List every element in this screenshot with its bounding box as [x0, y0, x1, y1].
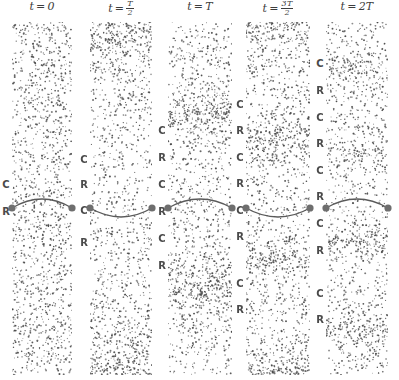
band-label-compression: C	[156, 180, 168, 190]
particle-field-2	[168, 22, 232, 375]
band-label-compression: C	[234, 100, 246, 110]
band-label-rarefaction: R	[314, 315, 326, 325]
band-label-compression: C	[156, 234, 168, 244]
band-label-rarefaction: R	[156, 153, 168, 163]
band-label-compression: C	[234, 279, 246, 289]
band-label-rarefaction: R	[156, 261, 168, 271]
band-label-compression: C	[156, 126, 168, 136]
column-title-3: t=3T2	[246, 0, 310, 18]
title-operator: =	[345, 0, 358, 13]
band-label-compression: C	[314, 289, 326, 299]
band-label-compression: C	[0, 180, 12, 190]
title-value: 2T	[359, 0, 374, 13]
column-title-2: t=T	[168, 0, 232, 13]
title-operator: =	[113, 2, 126, 15]
particle-field-0	[12, 22, 72, 375]
band-label-rarefaction: R	[156, 207, 168, 217]
wave-column-2: t=TCRCRCR	[168, 0, 232, 380]
column-title-0: t=0	[12, 0, 72, 13]
band-label-rarefaction: R	[234, 305, 246, 315]
title-value: 0	[47, 0, 54, 13]
column-title-4: t=2T	[326, 0, 388, 13]
column-title-1: t=T2	[90, 0, 152, 18]
band-label-rarefaction: R	[314, 192, 326, 202]
band-label-rarefaction: R	[314, 86, 326, 96]
band-label-compression: C	[234, 153, 246, 163]
wave-column-1: t=T2CRCR	[90, 0, 152, 380]
band-label-rarefaction: R	[78, 180, 90, 190]
wave-column-0: t=0CR	[12, 0, 72, 380]
band-label-rarefaction: R	[234, 126, 246, 136]
band-label-rarefaction: R	[0, 207, 12, 217]
wave-figure: t=0CRt=T2CRCRt=TCRCRCRt=3T2CRCRCRCRt=2TC…	[0, 0, 399, 380]
band-label-rarefaction: R	[234, 179, 246, 189]
band-label-compression: C	[314, 59, 326, 69]
band-label-rarefaction: R	[314, 246, 326, 256]
wave-column-3: t=3T2CRCRCRCR	[246, 0, 310, 380]
particle-field-1	[90, 22, 152, 375]
band-label-compression: C	[314, 166, 326, 176]
particle-field-4	[326, 22, 388, 375]
band-label-rarefaction: R	[314, 139, 326, 149]
particle-field-3	[246, 22, 310, 375]
title-fraction: T2	[126, 0, 134, 18]
title-fraction: 3T2	[281, 0, 294, 18]
band-label-compression: C	[314, 113, 326, 123]
fraction-denominator: 2	[126, 9, 134, 17]
wave-column-4: t=2TCRCRCRCRCR	[326, 0, 388, 380]
fraction-denominator: 2	[281, 9, 294, 17]
title-operator: =	[267, 2, 280, 15]
band-label-rarefaction: R	[234, 232, 246, 242]
band-label-compression: C	[234, 206, 246, 216]
title-operator: =	[192, 0, 205, 13]
title-operator: =	[34, 0, 47, 13]
band-label-compression: C	[314, 219, 326, 229]
band-label-compression: C	[78, 206, 90, 216]
band-label-compression: C	[78, 155, 90, 165]
band-label-rarefaction: R	[78, 238, 90, 248]
title-value: T	[205, 0, 213, 13]
